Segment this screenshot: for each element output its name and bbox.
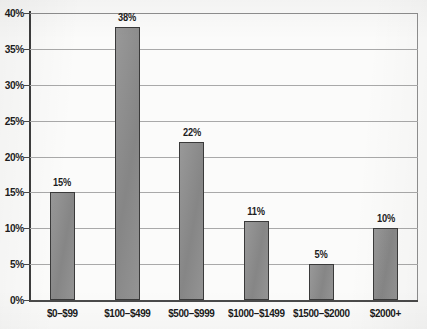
y-axis-tick-label: 25% xyxy=(4,116,24,127)
x-axis-category-label: $2000+ xyxy=(357,308,415,319)
y-axis-tick-label: 0% xyxy=(4,295,24,306)
y-axis-tick-label: 5% xyxy=(4,259,24,270)
bar-chart-figure: 40%35%30%25%20%15%10%5%0% 15%38%22%11%5%… xyxy=(0,0,427,329)
y-axis-tick-label: 20% xyxy=(4,152,24,163)
y-axis-tick xyxy=(24,228,30,229)
y-axis-tick xyxy=(24,157,30,158)
x-axis-category-label: $1000–$1499 xyxy=(227,308,285,319)
y-axis-tick xyxy=(24,192,30,193)
y-axis-tick-label: 40% xyxy=(4,8,24,19)
x-axis-category-label: $0–$99 xyxy=(33,308,91,319)
x-axis-category-label: $100–$499 xyxy=(98,308,156,319)
y-axis-tick xyxy=(24,264,30,265)
x-axis-category-label: $1500–$2000 xyxy=(292,308,350,319)
x-axis-labels: $0–$99$100–$499$500–$999$1000–$1499$1500… xyxy=(30,0,418,329)
y-axis-tick-label: 15% xyxy=(4,187,24,198)
y-axis-tick xyxy=(24,49,30,50)
y-axis-labels: 40%35%30%25%20%15%10%5%0% xyxy=(0,0,24,329)
y-axis-tick-label: 10% xyxy=(4,223,24,234)
x-axis-category-label: $500–$999 xyxy=(163,308,221,319)
y-axis-tick-label: 35% xyxy=(4,44,24,55)
y-axis-tick-label: 30% xyxy=(4,80,24,91)
y-axis-tick xyxy=(24,300,30,301)
y-axis-tick xyxy=(24,13,30,14)
y-axis-tick xyxy=(24,85,30,86)
y-axis-tick xyxy=(24,121,30,122)
